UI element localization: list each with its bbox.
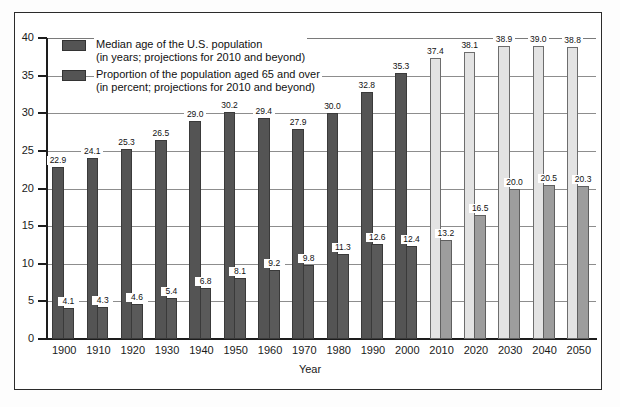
bar-label-elderly-share-2010: 13.2 <box>435 229 457 238</box>
bar-elderly-share-1920 <box>131 304 143 339</box>
bar-label-elderly-share-1950: 8.1 <box>229 267 251 276</box>
x-tick-label-1930: 1930 <box>150 344 184 356</box>
bar-elderly-share-1980 <box>337 254 349 339</box>
y-tick-label-25: 25 <box>0 145 34 156</box>
x-axis-title: Year <box>0 363 620 375</box>
bar-label-elderly-share-2040: 20.5 <box>538 174 560 183</box>
y-tick-label-40: 40 <box>0 32 34 43</box>
x-tick-label-2040: 2040 <box>527 344 561 356</box>
y-tick-label-30: 30 <box>0 107 34 118</box>
bar-elderly-share-1910 <box>97 307 109 339</box>
y-tick-label-20: 20 <box>0 183 34 194</box>
bar-elderly-share-2030 <box>509 189 521 340</box>
gridline-30 <box>47 113 596 114</box>
bar-label-median-age-1930: 26.5 <box>150 129 172 138</box>
x-tick-label-1950: 1950 <box>219 344 253 356</box>
bar-elderly-share-1990 <box>371 244 383 339</box>
bar-label-elderly-share-2030: 20.0 <box>504 178 526 187</box>
bar-label-median-age-2040: 39.0 <box>528 35 550 44</box>
bar-label-median-age-2030: 38.9 <box>493 35 515 44</box>
bar-label-median-age-2050: 38.8 <box>562 36 584 45</box>
bar-elderly-share-1970 <box>303 265 315 339</box>
bar-elderly-share-1960 <box>269 270 281 339</box>
bar-label-elderly-share-1910: 4.3 <box>92 296 114 305</box>
legend-label-median-age-line1: Median age of the U.S. population <box>96 38 305 51</box>
x-tick-label-1940: 1940 <box>184 344 218 356</box>
bar-label-median-age-2010: 37.4 <box>425 47 447 56</box>
y-axis-line <box>46 38 48 340</box>
legend-label-median-age-line2: (in years; projections for 2010 and beyo… <box>96 51 305 64</box>
bar-elderly-share-2040 <box>543 185 555 339</box>
x-tick-label-2010: 2010 <box>424 344 458 356</box>
bar-label-elderly-share-1940: 6.8 <box>195 277 217 286</box>
x-tick-label-1980: 1980 <box>322 344 356 356</box>
bar-label-elderly-share-1980: 11.3 <box>332 243 354 252</box>
y-tick-label-0: 0 <box>0 333 34 344</box>
y-tick-label-5: 5 <box>0 295 34 306</box>
bar-elderly-share-1930 <box>166 298 178 339</box>
y-tick-label-10: 10 <box>0 258 34 269</box>
bar-elderly-share-2050 <box>577 186 589 339</box>
x-tick-label-1960: 1960 <box>253 344 287 356</box>
bar-elderly-share-1950 <box>234 278 246 339</box>
bar-elderly-share-1900 <box>63 308 75 339</box>
bar-label-median-age-1980: 30.0 <box>322 102 344 111</box>
x-tick-label-2030: 2030 <box>493 344 527 356</box>
bar-label-elderly-share-1990: 12.6 <box>366 233 388 242</box>
bar-label-median-age-1970: 27.9 <box>287 118 309 127</box>
x-tick-label-1990: 1990 <box>356 344 390 356</box>
y-tick-label-15: 15 <box>0 220 34 231</box>
chart-figure: 0510152025303540 22.94.124.14.325.34.626… <box>0 0 620 407</box>
bar-elderly-share-2020 <box>474 215 486 339</box>
bar-label-median-age-2000: 35.3 <box>390 62 412 71</box>
chart-legend: Median age of the U.S. population (in ye… <box>62 38 392 98</box>
x-tick-label-1970: 1970 <box>287 344 321 356</box>
bar-label-elderly-share-1920: 4.6 <box>126 293 148 302</box>
bar-label-elderly-share-2000: 12.4 <box>401 235 423 244</box>
bar-label-elderly-share-1970: 9.8 <box>298 254 320 263</box>
bar-label-median-age-2020: 38.1 <box>459 41 481 50</box>
legend-label-elderly-share: Proportion of the population aged 65 and… <box>94 68 322 94</box>
bar-label-median-age-1960: 29.4 <box>253 107 275 116</box>
x-tick-label-2000: 2000 <box>390 344 424 356</box>
bar-label-elderly-share-1900: 4.1 <box>58 297 80 306</box>
bar-elderly-share-2000 <box>406 246 418 339</box>
bar-label-median-age-1910: 24.1 <box>81 147 103 156</box>
x-tick-label-1920: 1920 <box>116 344 150 356</box>
bar-label-median-age-1950: 30.2 <box>219 101 241 110</box>
bar-label-median-age-1900: 22.9 <box>47 156 69 165</box>
x-tick-label-2050: 2050 <box>562 344 596 356</box>
legend-item-median-age: Median age of the U.S. population (in ye… <box>62 38 392 66</box>
x-tick-label-1910: 1910 <box>81 344 115 356</box>
bar-elderly-share-1940 <box>200 288 212 339</box>
bar-label-elderly-share-2050: 20.3 <box>572 175 594 184</box>
bar-elderly-share-2010 <box>440 240 452 339</box>
legend-label-elderly-share-line1: Proportion of the population aged 65 and… <box>96 68 320 81</box>
bar-label-elderly-share-2020: 16.5 <box>469 204 491 213</box>
legend-swatch-elderly-share <box>62 70 86 81</box>
y-tick-label-35: 35 <box>0 70 34 81</box>
bar-label-elderly-share-1930: 5.4 <box>161 287 183 296</box>
legend-item-elderly-share: Proportion of the population aged 65 and… <box>62 68 392 96</box>
bar-label-median-age-1920: 25.3 <box>116 138 138 147</box>
bar-label-median-age-1940: 29.0 <box>184 110 206 119</box>
legend-label-median-age: Median age of the U.S. population (in ye… <box>94 38 307 64</box>
legend-swatch-median-age <box>62 40 86 51</box>
x-tick-label-2020: 2020 <box>459 344 493 356</box>
legend-label-elderly-share-line2: (in percent; projections for 2010 and be… <box>96 81 320 94</box>
x-tick-label-1900: 1900 <box>47 344 81 356</box>
bar-label-elderly-share-1960: 9.2 <box>264 259 286 268</box>
